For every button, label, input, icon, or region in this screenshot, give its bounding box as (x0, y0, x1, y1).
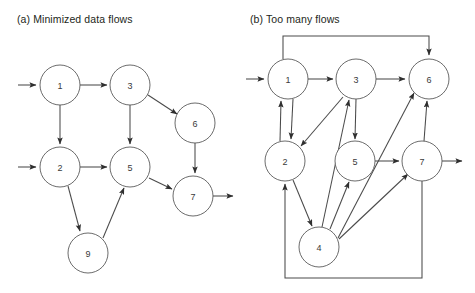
edge-b7-to-b2 (285, 181, 422, 278)
edge-b2-to-b1 (280, 101, 281, 141)
edge-a5-to-a7 (149, 178, 172, 189)
node-a6[interactable]: 6 (175, 103, 215, 143)
node-label-b6: 6 (426, 75, 431, 85)
node-label-a1: 1 (57, 81, 62, 91)
node-b1[interactable]: 1 (268, 59, 308, 99)
node-b3[interactable]: 3 (336, 59, 376, 99)
node-b6[interactable]: 6 (409, 59, 449, 99)
node-label-b5: 5 (352, 157, 357, 167)
node-b2[interactable]: 2 (265, 141, 305, 181)
node-a7[interactable]: 7 (173, 176, 213, 216)
node-b5[interactable]: 5 (335, 141, 375, 181)
edge-b1-to-b2 (291, 99, 293, 139)
node-label-b4: 4 (316, 243, 321, 253)
edge-b2-to-b4 (293, 180, 312, 226)
node-label-a9: 9 (85, 249, 90, 259)
panel-b-caption: (b) Too many flows (250, 13, 340, 25)
edge-b7-to-b6 (424, 101, 427, 141)
flow-diagram-svg: 13625791362574 (0, 0, 475, 293)
node-a1[interactable]: 1 (40, 65, 80, 105)
node-label-a5: 5 (127, 163, 132, 173)
edge-a9-to-a5 (103, 188, 124, 238)
node-label-b2: 2 (282, 157, 287, 167)
edge-b1-to-b6 (283, 36, 429, 59)
node-label-b7: 7 (419, 157, 424, 167)
figure-container: (a) Minimized data flows (b) Too many fl… (0, 0, 475, 293)
node-a9[interactable]: 9 (68, 233, 108, 273)
node-label-a6: 6 (192, 119, 197, 129)
node-a5[interactable]: 5 (110, 147, 150, 187)
node-label-b1: 1 (285, 75, 290, 85)
node-label-b3: 3 (353, 75, 358, 85)
node-label-a2: 2 (57, 163, 62, 173)
edge-a2-to-a9 (68, 186, 80, 231)
nodes-layer: 13625791362574 (40, 59, 449, 273)
edge-b3-to-b2 (301, 97, 343, 146)
node-b4[interactable]: 4 (299, 227, 339, 267)
edge-b3-to-b5 (355, 99, 356, 139)
node-a2[interactable]: 2 (40, 147, 80, 187)
node-label-a7: 7 (190, 192, 195, 202)
edge-a3-to-a6 (148, 95, 177, 114)
node-label-a3: 3 (127, 81, 132, 91)
panel-a-caption: (a) Minimized data flows (17, 13, 133, 25)
node-a3[interactable]: 3 (110, 65, 150, 105)
edge-b4-to-b7 (339, 174, 408, 239)
node-b7[interactable]: 7 (402, 141, 442, 181)
